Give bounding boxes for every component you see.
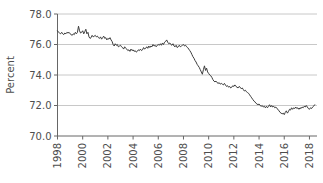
x-tick-label: 2000 [77,143,88,168]
y-axis-title: Percent [5,56,16,94]
x-tick-label: 2006 [153,143,164,168]
line-chart: 70.072.074.076.078.0 1998200020022004200… [0,0,323,183]
x-tick-label: 2008 [178,143,189,168]
x-tick-label: 2018 [304,143,315,168]
x-tick-label: 2014 [254,143,265,168]
y-tick-label: 78.0 [29,9,51,20]
chart-container: 70.072.074.076.078.0 1998200020022004200… [0,0,323,183]
y-tick-label: 72.0 [29,100,51,111]
y-tick-label: 76.0 [29,39,51,50]
x-tick-label: 2002 [102,143,113,168]
x-tick-label: 1998 [52,143,63,168]
y-tick-label: 74.0 [29,70,51,81]
x-tick-label: 2004 [128,143,139,168]
x-tick-label: 2010 [203,143,214,168]
y-tick-label: 70.0 [29,131,51,142]
x-tick-label: 2012 [228,143,239,168]
x-tick-label: 2016 [279,143,290,168]
